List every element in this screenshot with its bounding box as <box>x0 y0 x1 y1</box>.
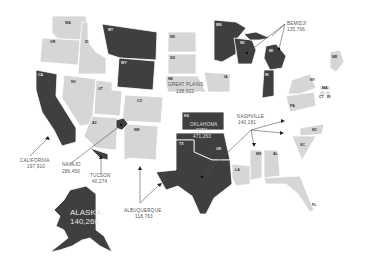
callout-okc-name2: CITY <box>196 128 207 133</box>
label-nm: NM <box>134 128 140 132</box>
state-wi[interactable] <box>234 38 256 64</box>
state-fl[interactable] <box>264 176 314 212</box>
callout-okc-value: 471,263 <box>193 134 211 139</box>
label-az: AZ <box>92 121 98 125</box>
label-mt: MT <box>108 28 114 32</box>
state-sc[interactable] <box>292 136 316 160</box>
arrow-nashville-1 <box>281 119 285 123</box>
state-me[interactable] <box>330 50 344 72</box>
callout-california-value: 197,910 <box>27 164 45 169</box>
state-pa[interactable] <box>286 92 316 112</box>
leader-albuquerque-2 <box>140 184 160 203</box>
callout-california-name: CALIFORNIA <box>20 158 50 163</box>
leader-california <box>30 138 48 156</box>
tucson-region[interactable] <box>90 148 108 160</box>
label-nv: NV <box>71 80 77 84</box>
callout-navajo-name: NAVAJO <box>62 162 81 167</box>
callout-tucson-value: 40,274 <box>92 179 107 184</box>
callout-navajo-value: 286,450 <box>62 169 80 174</box>
arrow-nashville-2 <box>280 131 284 135</box>
state-co[interactable] <box>122 95 163 123</box>
label-al: AL <box>273 152 279 156</box>
label-sc: SC <box>300 143 305 147</box>
label-ks: KS <box>184 114 190 118</box>
dot-oklahoma <box>201 176 204 179</box>
label-ia: IA <box>224 75 228 79</box>
label-ut: UT <box>98 87 104 91</box>
leader-nashville-2 <box>251 130 282 133</box>
callout-nashville-name: NASHVILLE <box>237 114 264 119</box>
label-wy: WY <box>121 61 127 65</box>
arrow-california <box>45 136 50 140</box>
leader-nashville-3 <box>251 130 254 145</box>
callout-bemidji-value: 135,766 <box>287 27 305 32</box>
callout-okc-name: OKLAHOMA <box>190 122 218 127</box>
label-mn: MN <box>216 23 222 27</box>
dot-bemidji-2 <box>278 48 280 50</box>
dot-bemidji-1 <box>246 52 248 54</box>
label-in: IN <box>265 73 269 77</box>
callout-albuquerque-value: 118,763 <box>135 214 153 219</box>
label-sd: SD <box>170 56 175 60</box>
label-ne: NE <box>168 77 174 81</box>
label-id: ID <box>85 40 89 44</box>
callout-alaska-value: 140,260 <box>70 217 99 226</box>
leader-bemidji-3 <box>272 24 285 36</box>
label-me: ME <box>332 55 338 59</box>
label-ms: MS <box>256 152 262 156</box>
callout-tucson-name: TUCSON <box>90 173 111 178</box>
label-nd: ND <box>170 35 176 39</box>
callout-alaska-name: ALASKA <box>70 208 102 217</box>
state-nm[interactable] <box>124 124 158 160</box>
label-fl: FL <box>312 203 317 207</box>
label-ct: CT <box>319 95 325 99</box>
label-wi: WI <box>240 41 244 45</box>
label-co: CO <box>137 99 143 103</box>
callout-nashville-value: 140,181 <box>238 120 256 125</box>
state-mi[interactable] <box>264 44 286 70</box>
us-map: WA OR ID MT WY CA NV UT AZ CO NM ND SD N… <box>0 0 365 276</box>
dot-navajo <box>120 124 122 126</box>
arrow-nashville-3 <box>252 143 256 147</box>
callout-albuquerque-name: ALBUQUERQUE <box>124 208 161 213</box>
label-ca: CA <box>38 73 44 77</box>
label-ok: OK <box>216 147 222 151</box>
label-ny: NY <box>310 78 316 82</box>
label-wa: WA <box>65 21 71 25</box>
label-ri: RI <box>327 95 331 99</box>
arrow-albuquerque <box>138 166 142 170</box>
label-tx: TX <box>179 142 184 146</box>
label-or: OR <box>50 40 56 44</box>
callout-bemidji-name: BEMIDJI <box>287 21 307 26</box>
label-pa: PA <box>290 104 295 108</box>
callout-greatplains-value: 138,022 <box>176 89 194 94</box>
label-mi: MI <box>269 49 273 53</box>
state-ny[interactable] <box>288 74 316 94</box>
label-ma: MA <box>322 86 328 90</box>
label-la: LA <box>235 168 240 172</box>
state-id[interactable] <box>78 22 106 74</box>
state-or[interactable] <box>40 38 80 65</box>
label-nc: NC <box>312 128 318 132</box>
callout-greatplains-name: GREAT PLAINS <box>168 82 203 87</box>
